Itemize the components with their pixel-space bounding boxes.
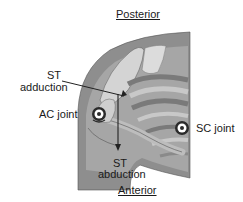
label-sc-joint: SC joint xyxy=(196,122,235,134)
label-posterior: Posterior xyxy=(116,8,160,20)
label-st-adduction-line2: adduction xyxy=(20,81,68,93)
label-st-adduction-line1: ST xyxy=(47,69,61,81)
label-anterior: Anterior xyxy=(118,184,157,196)
shoulder-girdle-diagram: Posterior ST adduction AC joint SC joint… xyxy=(0,0,243,202)
sc-joint-marker xyxy=(175,121,189,135)
label-ac-joint: AC joint xyxy=(39,108,78,120)
label-st-abduction-line2: abduction xyxy=(98,168,146,180)
